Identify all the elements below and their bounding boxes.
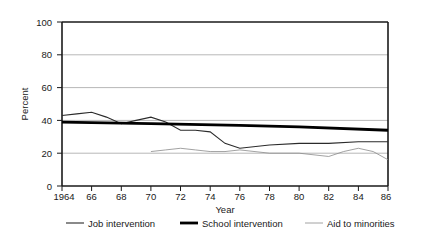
- chart-legend: Job intervention School intervention Aid…: [66, 218, 395, 229]
- y-tick-label-40: 40: [41, 115, 52, 126]
- x-tick-label-68: 68: [116, 191, 127, 202]
- x-tick-label-72: 72: [175, 191, 186, 202]
- x-tick-label-76: 76: [235, 191, 246, 202]
- x-tick-label-80: 80: [294, 191, 305, 202]
- x-tick-label-78: 78: [264, 191, 275, 202]
- x-tick-label-82: 82: [323, 191, 334, 202]
- y-tick-label-20: 20: [41, 148, 52, 159]
- y-axis-title: Percent: [19, 87, 30, 120]
- chart-figure: 100 80 60 40 20 0 Percent 1964 6: [0, 0, 424, 238]
- y-tick-label-80: 80: [41, 49, 52, 60]
- legend-label-school-intervention: School intervention: [202, 218, 283, 229]
- legend-label-job-intervention: Job intervention: [88, 218, 155, 229]
- line-chart: 100 80 60 40 20 0 Percent 1964 6: [0, 0, 424, 238]
- x-tick-label-1964: 1964: [53, 191, 74, 202]
- chart-background: [0, 0, 424, 238]
- x-tick-label-86: 86: [381, 191, 392, 202]
- legend-label-aid-to-minorities: Aid to minorities: [327, 218, 395, 229]
- x-tick-label-70: 70: [146, 191, 157, 202]
- x-axis-title: Year: [215, 204, 234, 215]
- y-tick-label-60: 60: [41, 82, 52, 93]
- y-tick-label-0: 0: [47, 181, 52, 192]
- x-tick-label-84: 84: [353, 191, 364, 202]
- x-tick-label-74: 74: [205, 191, 216, 202]
- y-tick-label-100: 100: [36, 17, 52, 28]
- x-tick-label-66: 66: [86, 191, 97, 202]
